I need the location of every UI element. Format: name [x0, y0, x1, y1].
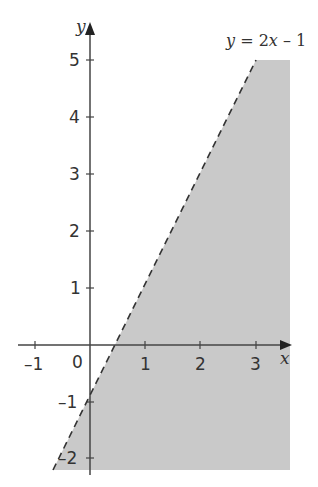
shaded-region	[53, 60, 290, 470]
equation-label: y = 2x – 1	[225, 31, 306, 50]
y-tick-label: 1	[70, 278, 81, 298]
x-tick-label: 3	[250, 354, 261, 374]
y-tick-label: –2	[58, 448, 77, 468]
y-axis-arrow-icon	[85, 22, 95, 35]
x-tick-label: –1	[24, 354, 43, 374]
y-tick-label: –1	[58, 392, 77, 412]
y-axis-label: y	[75, 16, 86, 36]
y-tick-label: 3	[69, 164, 80, 184]
x-tick-label: 2	[195, 354, 206, 374]
y-tick-label: 2	[69, 221, 80, 241]
x-axis-label: x	[280, 348, 290, 368]
inequality-graph: –1 0 1 2 3 5 4 3 2 1 –1 –2 x y y = 2x – …	[0, 0, 318, 487]
y-tick-label: 5	[69, 50, 80, 70]
y-tick-label: 4	[69, 107, 80, 127]
x-tick-label: 0	[72, 352, 83, 372]
x-tick-label: 1	[140, 354, 151, 374]
